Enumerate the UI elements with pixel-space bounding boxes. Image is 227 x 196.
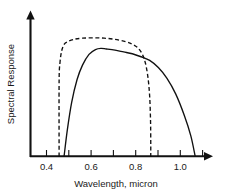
x-axis-title: Wavelength, micron <box>74 178 158 189</box>
x-tick-label-2: 0.6 <box>84 161 97 172</box>
x-axis-ticks <box>47 150 203 156</box>
x-tick-label-4: 0.8 <box>129 161 142 172</box>
x-tick-label-0: 0.4 <box>40 161 53 172</box>
x-tick-label-6: 1.0 <box>174 161 187 172</box>
y-axis-title: Spectral Response <box>5 44 16 124</box>
chart-canvas: Spectral Response 0.4 0.6 0.8 1.0 Wavele… <box>0 0 227 196</box>
spectral-response-chart: Spectral Response 0.4 0.6 0.8 1.0 Wavele… <box>0 0 227 196</box>
x-axis-arrow-icon <box>204 152 213 160</box>
solid-response-curve <box>64 48 195 156</box>
y-axis-arrow-icon <box>26 11 34 20</box>
